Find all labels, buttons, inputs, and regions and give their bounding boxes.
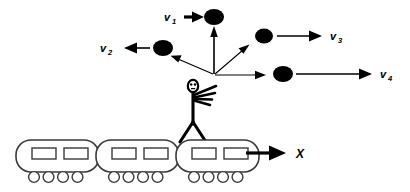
train-group: X: [16, 140, 305, 182]
juggler-arm-3: [194, 99, 212, 100]
ball-v4: [273, 66, 293, 82]
vector-label-v1: v: [164, 11, 171, 23]
vector-rays-group: [171, 26, 267, 79]
juggler-eye-right: [194, 83, 197, 86]
v1-label-arrowhead: [192, 12, 204, 23]
vector-label-v4: v: [380, 68, 387, 80]
v3-label-arrowhead: [309, 31, 322, 42]
train-car-3-wheel-1: [189, 172, 200, 183]
train-car-3-wheel-4: [232, 172, 243, 183]
ball-v3: [255, 29, 273, 44]
train-motion-arrowhead: [269, 146, 286, 161]
train-car-2-window-2: [144, 148, 168, 159]
train-car-2-window-1: [112, 148, 136, 159]
vector-label-v2: v: [100, 42, 107, 54]
juggler-eye-left: [190, 83, 193, 86]
axis-label-x: X: [295, 147, 305, 161]
train-car-1-window-2: [64, 148, 88, 159]
train-car-2-wheel-1: [109, 172, 120, 183]
vector-label-v1-subscript: 1: [172, 17, 176, 26]
ray-v4-arrowhead: [255, 71, 266, 79]
train-car-2-wheel-2: [123, 172, 134, 183]
physics-diagram-figure: v 1 v 2 v 3 v 4: [0, 0, 410, 192]
vector-v4-group: v 4: [273, 66, 393, 83]
train-car-2-wheel-3: [138, 172, 149, 183]
train-car-3-wheel-2: [203, 172, 214, 183]
train-car-2-wheel-4: [152, 172, 163, 183]
juggler-leg-left: [180, 122, 193, 142]
ray-v2-arrowhead: [171, 55, 182, 62]
ray-v1: [210, 26, 218, 74]
train-car-1-window-1: [32, 148, 56, 159]
diagram-canvas: v 1 v 2 v 3 v 4: [0, 0, 410, 192]
juggler-leg-right: [193, 122, 206, 142]
ray-v2: [171, 55, 214, 74]
ray-v1-arrowhead: [210, 26, 218, 37]
train-car-1-wheel-1: [29, 172, 40, 183]
juggler-head-icon: [188, 80, 198, 92]
train-car-3: [176, 140, 259, 182]
vector-v3-group: v 3: [255, 29, 343, 46]
train-car-3-wheel-3: [218, 172, 229, 183]
ray-v3-line: [215, 50, 243, 74]
train-car-3-window-2: [224, 148, 248, 159]
train-car-1-wheel-2: [43, 172, 54, 183]
v4-label-arrowhead: [359, 69, 372, 80]
ray-v4: [215, 71, 266, 79]
v2-label-arrowhead: [124, 43, 137, 54]
vector-label-v3: v: [330, 30, 337, 42]
ray-v3: [215, 45, 250, 75]
vector-v2-group: v 2: [100, 40, 173, 57]
vector-label-v2-subscript: 2: [107, 48, 113, 57]
ball-v1: [204, 9, 224, 25]
juggler-figure: [180, 80, 216, 142]
ball-v2: [153, 40, 173, 56]
train-car-2: [96, 140, 179, 182]
train-car-1-wheel-4: [72, 172, 83, 183]
ray-v2-line: [178, 59, 213, 74]
train-car-1-wheel-3: [58, 172, 69, 183]
train-car-3-window-1: [192, 148, 216, 159]
vector-label-v4-subscript: 4: [387, 74, 393, 83]
vector-v1-group: v 1: [164, 9, 224, 26]
train-car-1: [16, 140, 99, 182]
vector-label-v3-subscript: 3: [338, 36, 343, 45]
juggler-arm-4: [194, 101, 210, 106]
